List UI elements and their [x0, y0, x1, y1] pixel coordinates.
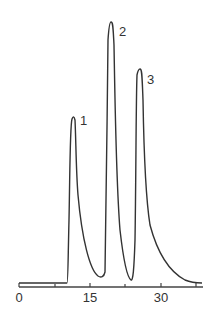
peak-label-1: 1 [80, 113, 87, 128]
x-tick-label-15: 15 [83, 290, 97, 305]
chromatogram-trace [19, 22, 202, 283]
x-tick-label-30: 30 [154, 290, 168, 305]
x-tick-label-0: 0 [15, 290, 22, 305]
peak-label-2: 2 [119, 24, 126, 39]
chromatogram-chart: 0 15 30 1 2 3 [0, 0, 218, 322]
peak-label-3: 3 [147, 72, 154, 87]
